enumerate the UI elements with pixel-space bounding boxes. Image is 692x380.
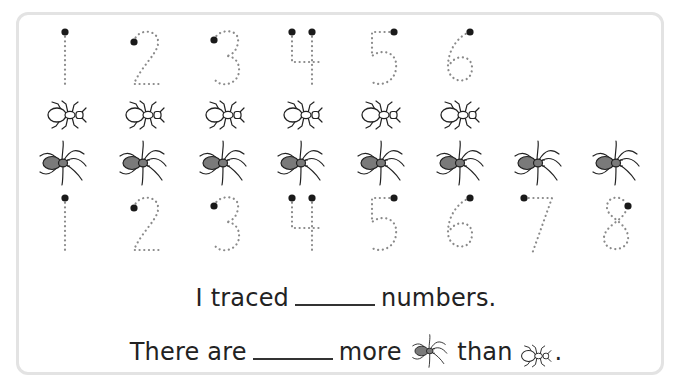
answer-blank-traced[interactable] [295,284,375,306]
trace-digit-6-top[interactable] [440,26,482,90]
sentence1-after: numbers. [381,284,496,312]
spider-icon [433,140,485,186]
trace-digit-4-bottom[interactable] [284,192,326,256]
sentence-compare: There aremore than . [0,334,692,374]
trace-digit-8-bottom[interactable] [596,192,638,256]
sentence2-before: There are [130,338,247,366]
spider-icon [36,140,88,186]
spider-icon [116,140,168,186]
trace-digit-2-bottom[interactable] [126,192,168,256]
spider-icon [354,140,406,186]
ant-icon [46,100,90,130]
ant-icon [360,100,404,130]
ant-icon [520,344,554,374]
sentence2-between: than [457,338,512,366]
spider-icon [196,140,248,186]
trace-digit-5-bottom[interactable] [362,192,404,256]
ant-icon [439,100,483,130]
trace-digit-7-bottom[interactable] [516,192,558,256]
bottom-digit-row [0,192,692,258]
spider-icon [511,140,563,186]
sentence-traced: I tracednumbers. [0,284,692,312]
spider-icon [589,140,641,186]
ant-icon [282,100,326,130]
spider-row [0,140,692,184]
spider-icon [274,140,326,186]
sentence2-middle: more [339,338,402,366]
ant-row [0,100,692,134]
trace-digit-4-top[interactable] [284,26,326,90]
trace-digit-6-bottom[interactable] [440,192,482,256]
trace-digit-3-top[interactable] [206,26,248,90]
sentence2-end: . [554,338,562,366]
trace-digit-3-bottom[interactable] [206,192,248,256]
spider-icon [409,334,449,374]
trace-digit-1-bottom[interactable] [45,192,87,256]
ant-icon [204,100,248,130]
sentence1-before: I traced [196,284,290,312]
trace-digit-1-top[interactable] [45,26,87,90]
trace-digit-2-top[interactable] [126,26,168,90]
trace-digit-5-top[interactable] [362,26,404,90]
top-digit-row [0,26,692,92]
ant-icon [124,100,168,130]
answer-blank-more[interactable] [253,338,333,360]
